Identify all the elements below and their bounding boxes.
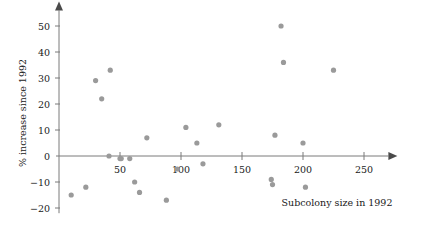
scatter-plot-figure: 50100150200250−20−1001020304050 % increa… — [0, 0, 422, 226]
data-point — [99, 96, 104, 101]
data-point — [269, 177, 274, 182]
y-tick-label--10: −10 — [30, 177, 50, 188]
x-axis-title: Subcolony size in 1992 — [282, 197, 393, 208]
data-point — [272, 133, 277, 138]
data-point — [331, 68, 336, 73]
plot-canvas: 50100150200250−20−1001020304050 % increa… — [0, 0, 422, 226]
y-axis-title: % increase since 1992 — [17, 59, 28, 167]
y-axis-arrow-icon — [55, 1, 63, 10]
data-point — [144, 135, 149, 140]
y-tick-label-40: 40 — [38, 47, 50, 58]
axes-group — [55, 1, 397, 213]
x-tick-label-250: 250 — [355, 164, 373, 175]
data-point — [132, 179, 137, 184]
data-point — [300, 140, 305, 145]
y-tick-label--20: −20 — [30, 203, 50, 214]
y-tick-label-50: 50 — [38, 21, 50, 32]
data-point — [270, 182, 275, 187]
x-tick-label-150: 150 — [233, 164, 251, 175]
x-axis-arrow-icon — [388, 152, 397, 160]
data-point — [137, 190, 142, 195]
y-tick-label-10: 10 — [38, 125, 50, 136]
data-point — [164, 198, 169, 203]
axis-labels-group: % increase since 1992Subcolony size in 1… — [17, 59, 392, 208]
data-point — [175, 166, 180, 171]
data-point — [119, 156, 124, 161]
data-point — [106, 153, 111, 158]
data-point — [93, 78, 98, 83]
data-point — [281, 60, 286, 65]
data-point — [278, 23, 283, 28]
data-point — [200, 161, 205, 166]
y-tick-label-0: 0 — [44, 151, 50, 162]
data-point — [127, 156, 132, 161]
data-point — [216, 122, 221, 127]
y-tick-label-20: 20 — [38, 99, 50, 110]
data-point — [69, 192, 74, 197]
data-points-group — [69, 23, 337, 202]
x-tick-label-50: 50 — [114, 164, 126, 175]
data-point — [194, 140, 199, 145]
ticks-group: 50100150200250−20−1001020304050 — [30, 21, 373, 214]
data-point — [108, 68, 113, 73]
data-point — [83, 185, 88, 190]
x-tick-label-100: 100 — [172, 164, 190, 175]
data-point — [303, 185, 308, 190]
x-tick-label-200: 200 — [294, 164, 312, 175]
data-point — [183, 125, 188, 130]
y-tick-label-30: 30 — [38, 73, 50, 84]
